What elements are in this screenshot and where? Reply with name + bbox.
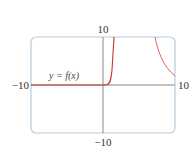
function-label: y = f(x) (48, 70, 80, 82)
x-max-label: 10 (178, 79, 190, 91)
y-max-label: 10 (98, 23, 110, 35)
x-min-label: −10 (12, 79, 30, 91)
y-min-label: −10 (94, 136, 112, 148)
curve-branch-right (155, 37, 175, 76)
chart: 10 −10 −10 10 y = f(x) (0, 0, 193, 155)
